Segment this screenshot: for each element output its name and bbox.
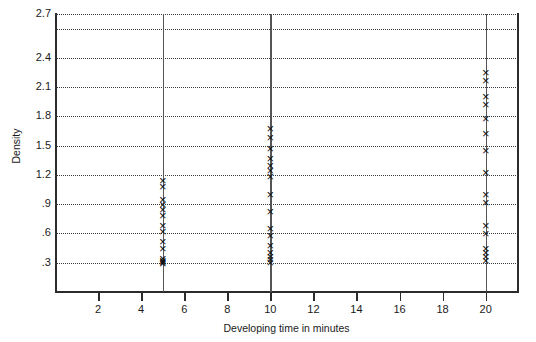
gridline-horizontal <box>55 87 518 88</box>
x-tick-label: 18 <box>428 303 458 315</box>
x-tick-label: 14 <box>341 303 371 315</box>
x-tick-mark <box>98 292 100 301</box>
y-tick-label: .9 <box>5 198 51 209</box>
gridline-horizontal <box>55 58 518 59</box>
vertical-reference-line <box>163 14 165 292</box>
x-tick-label: 2 <box>83 303 113 315</box>
x-tick-label: 8 <box>212 303 242 315</box>
y-tick-label: 2.1 <box>5 81 51 92</box>
y-axis-title: Density <box>10 116 22 176</box>
y-tick-label: .6 <box>5 227 51 238</box>
y-tick-label: 2.7 <box>5 8 51 19</box>
gridline-top-frame <box>55 14 518 15</box>
x-tick-mark <box>486 292 488 301</box>
y-tick-label: 2.4 <box>5 52 51 63</box>
gridline-horizontal <box>55 146 518 147</box>
x-tick-label: 16 <box>385 303 415 315</box>
x-tick-mark <box>141 292 143 301</box>
x-tick-label: 20 <box>471 303 501 315</box>
x-tick-label: 10 <box>255 303 285 315</box>
gridline-horizontal <box>55 29 518 30</box>
gridline-horizontal <box>55 233 518 234</box>
x-tick-label: 4 <box>126 303 156 315</box>
x-tick-label: 12 <box>298 303 328 315</box>
x-tick-mark <box>356 292 358 301</box>
x-tick-mark <box>270 292 272 301</box>
vertical-reference-line <box>486 14 488 292</box>
x-axis-title: Developing time in minutes <box>55 322 518 334</box>
y-axis-tick-labels: .3.6.91.21.51.82.12.42.7 <box>0 0 51 342</box>
gridline-horizontal <box>55 204 518 205</box>
gridline-horizontal <box>55 116 518 117</box>
x-tick-mark <box>400 292 402 301</box>
plot-area <box>55 14 518 292</box>
gridline-horizontal <box>55 263 518 264</box>
gridline-horizontal <box>55 175 518 176</box>
x-tick-mark <box>227 292 229 301</box>
y-tick-label: .3 <box>5 257 51 268</box>
x-tick-mark <box>443 292 445 301</box>
x-tick-mark <box>313 292 315 301</box>
chart-page: .3.6.91.21.51.82.12.42.7 Density Develop… <box>0 0 536 342</box>
x-tick-label: 6 <box>169 303 199 315</box>
x-tick-mark <box>184 292 186 301</box>
vertical-reference-line <box>270 14 272 292</box>
